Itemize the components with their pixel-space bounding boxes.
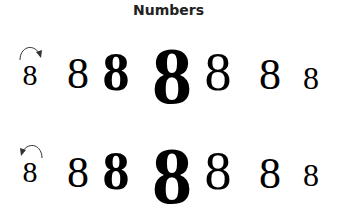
page-title: Numbers	[0, 2, 337, 18]
digit-eight: 8	[205, 45, 232, 99]
digit-eight: 8	[23, 157, 38, 187]
digit-eight: 8	[103, 144, 130, 198]
digit-eight: 8	[259, 152, 281, 196]
digit-eight: 8	[103, 45, 130, 99]
digit-eight: 8	[152, 36, 192, 116]
digit-eight: 8	[303, 62, 319, 94]
digit-eight: 8	[23, 60, 38, 90]
digit-eight: 8	[67, 151, 89, 195]
digit-eight: 8	[67, 52, 89, 96]
digit-eight: 8	[303, 159, 319, 191]
digit-eight: 8	[259, 53, 281, 97]
digit-eight: 8	[205, 144, 232, 198]
digit-eight: 8	[152, 136, 192, 216]
